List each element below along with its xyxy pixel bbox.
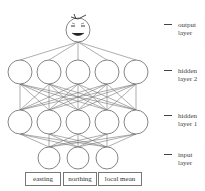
hidden2-node bbox=[95, 60, 119, 84]
hidden2-node bbox=[66, 60, 90, 84]
input-box-local-mean: local mean bbox=[98, 172, 142, 186]
input-box-northing: northing bbox=[63, 172, 97, 186]
label-input-layer: input layer bbox=[178, 151, 192, 167]
network-diagram bbox=[0, 0, 205, 191]
leader-dash bbox=[164, 154, 172, 155]
hidden1-node bbox=[37, 110, 61, 134]
label-line1: output bbox=[178, 21, 196, 29]
input-node bbox=[96, 147, 118, 169]
nodes bbox=[8, 60, 148, 169]
input-box-easting: easting bbox=[25, 172, 61, 186]
hidden1-node bbox=[66, 110, 90, 134]
hidden2-node bbox=[124, 60, 148, 84]
input-node bbox=[67, 147, 89, 169]
label-hidden-layer-2: hidden layer 2 bbox=[178, 67, 197, 83]
label-line2: layer 1 bbox=[178, 120, 197, 128]
label-output-layer: output layer bbox=[178, 21, 196, 37]
leader-dash bbox=[164, 115, 172, 116]
label-line1: input bbox=[178, 151, 192, 159]
leader-dash bbox=[164, 24, 172, 25]
hidden1-node bbox=[8, 110, 32, 134]
leader-dash bbox=[164, 70, 172, 71]
hidden2-node bbox=[37, 60, 61, 84]
hidden1-node bbox=[95, 110, 119, 134]
label-line1: hidden bbox=[178, 112, 197, 120]
label-line2: layer 2 bbox=[178, 75, 197, 83]
label-line1: hidden bbox=[178, 67, 197, 75]
label-line2: layer bbox=[178, 159, 192, 167]
input-node bbox=[38, 147, 60, 169]
hidden1-node bbox=[124, 110, 148, 134]
label-hidden-layer-1: hidden layer 1 bbox=[178, 112, 197, 128]
output-node bbox=[66, 14, 90, 42]
hidden2-node bbox=[8, 60, 32, 84]
label-line2: layer bbox=[178, 29, 196, 37]
